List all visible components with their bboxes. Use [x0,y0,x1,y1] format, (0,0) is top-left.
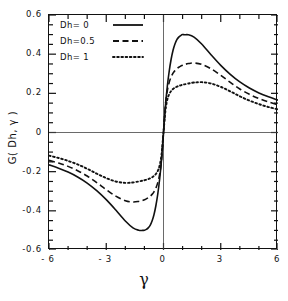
chart-figure: 0.60.40.20-0.2-0.4-0.6 G( Dh, γ ) Dh= 0D… [0,0,288,301]
legend-item: Dh= 1 [60,50,144,64]
legend-label: Dh= 0 [60,20,106,30]
y-tick-label: -0.6 [22,244,42,254]
y-tick-label: 0.6 [26,9,42,19]
legend-item: Dh= 0 [60,18,144,32]
x-tick-label: - 6 [41,254,55,264]
x-tick-label: - 3 [98,254,112,264]
legend-label: Dh= 1 [60,52,106,62]
y-tick-label: 0.4 [26,48,42,58]
legend-item: Dh=0.5 [60,34,144,48]
legend-line-sample-dashed [112,36,144,46]
y-tick-label: 0.2 [26,87,42,97]
y-tick-label: -0.4 [22,205,42,215]
x-axis-title: γ [0,270,288,289]
x-tick-label: 3 [217,254,223,264]
legend-label: Dh=0.5 [60,36,106,46]
y-axis-title: G( Dh, γ ) [7,98,18,178]
legend-line-sample-solid [112,20,144,30]
x-tick-label: 6 [274,254,280,264]
legend: Dh= 0Dh=0.5Dh= 1 [60,18,144,66]
y-tick-label: 0 [36,127,42,137]
x-tick-label: 0 [159,254,165,264]
y-tick-label: -0.2 [22,166,42,176]
legend-line-sample-dotted [112,52,144,62]
